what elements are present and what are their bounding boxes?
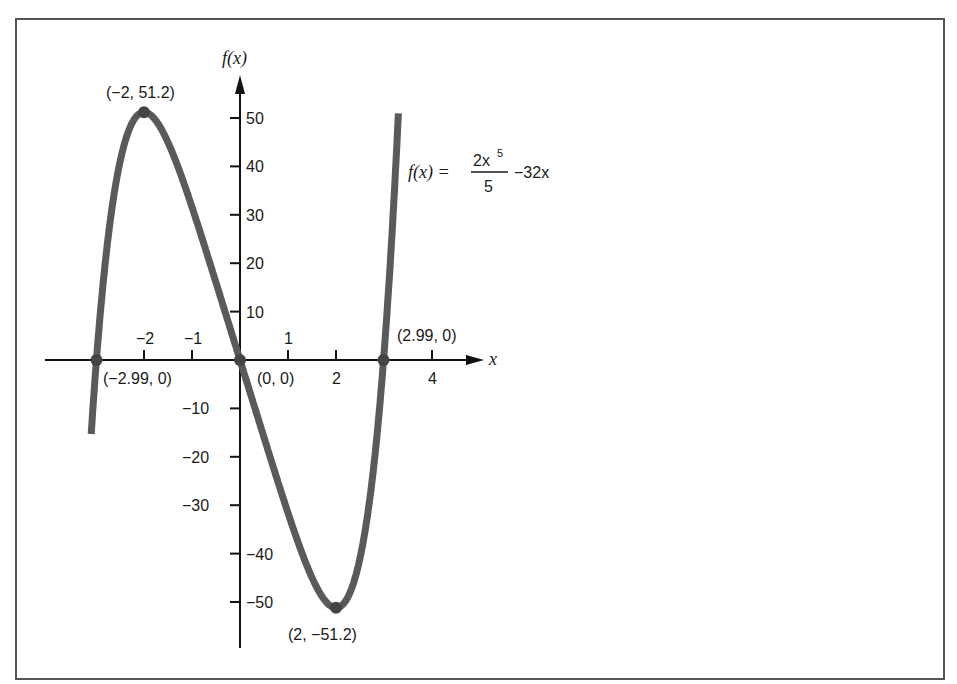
key-point-marker (378, 354, 390, 366)
annotation-min: (2, −51.2) (288, 626, 357, 643)
svg-text:5: 5 (497, 147, 503, 159)
y-tick-label: −10 (182, 400, 209, 417)
y-tick-label: −40 (246, 546, 273, 563)
x-tick-label: 4 (428, 370, 437, 387)
y-tick-label: −20 (182, 449, 209, 466)
x-tick-label: 2 (332, 370, 341, 387)
function-plot: −2−1124 5040302010−10−20−30−40−50 x f(x)… (0, 0, 957, 684)
function-label: f(x) = 2x 5 5 −32x (408, 147, 549, 195)
y-tick-label: 20 (246, 255, 264, 272)
x-tick-label: 1 (284, 330, 293, 347)
key-point-marker (90, 354, 102, 366)
key-point-marker (138, 106, 150, 118)
svg-text:−32x: −32x (514, 164, 549, 181)
y-axis-arrow-icon (235, 75, 245, 94)
y-tick-label: 30 (246, 207, 264, 224)
y-axis-label: f(x) (222, 48, 247, 69)
x-axis-label: x (488, 349, 497, 369)
svg-text:5: 5 (484, 178, 493, 195)
key-point-marker (330, 602, 342, 614)
y-tick-label: 40 (246, 158, 264, 175)
x-axis-arrow-icon (466, 355, 484, 365)
annotation-max: (−2, 51.2) (106, 84, 175, 101)
x-tick-label: −1 (184, 330, 202, 347)
annotation-root-right: (2.99, 0) (397, 327, 457, 344)
annotation-origin: (0, 0) (257, 370, 294, 387)
y-tick-label: 10 (246, 304, 264, 321)
y-tick-label: 50 (246, 110, 264, 127)
y-tick-label: −30 (182, 497, 209, 514)
x-tick-label: −2 (136, 330, 154, 347)
svg-text:2x: 2x (473, 152, 490, 169)
key-point-marker (234, 354, 246, 366)
svg-text:f(x) =: f(x) = (408, 162, 450, 183)
y-tick-label: −50 (246, 594, 273, 611)
annotation-root-left: (−2.99, 0) (103, 370, 172, 387)
